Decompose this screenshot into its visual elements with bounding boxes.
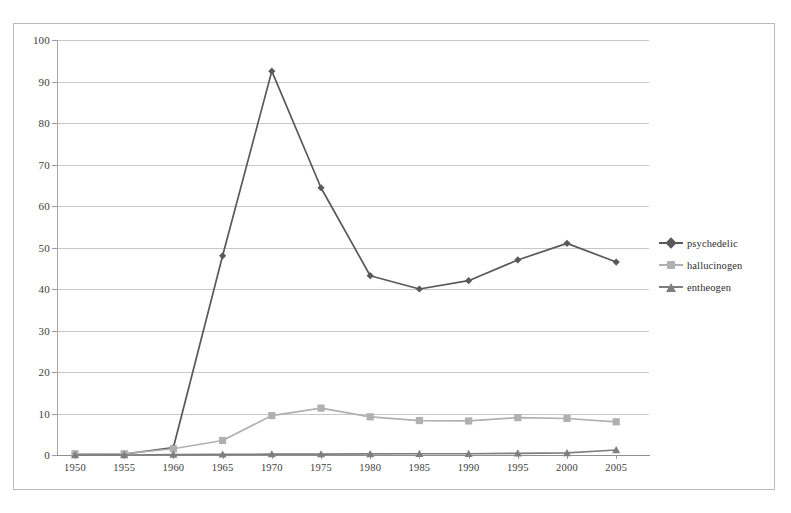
x-axis-tick-mark (616, 455, 617, 459)
x-axis-tick-mark (272, 455, 273, 459)
y-axis-line (57, 40, 58, 456)
x-axis-tick-mark (173, 455, 174, 459)
legend-label: psychedelic (687, 238, 738, 249)
y-axis-tick-label: 0 (44, 449, 50, 461)
y-axis-tick-label: 60 (39, 200, 50, 212)
x-axis-tick-mark (567, 455, 568, 459)
legend-item-entheogen[interactable]: entheogen (659, 276, 769, 298)
y-axis-tick-labels: 0102030405060708090100 (0, 0, 50, 513)
x-axis-tick-mark (370, 455, 371, 459)
y-axis-tick-label: 100 (33, 34, 50, 46)
chart-legend: psychedelichallucinogenentheogen (659, 232, 769, 298)
x-axis-tick-label: 1955 (113, 462, 135, 473)
y-axis-tick-label: 20 (39, 366, 50, 378)
x-axis-tick-label: 2005 (605, 462, 627, 473)
x-axis-tick-mark (124, 455, 125, 459)
x-axis-tick-label: 1970 (261, 462, 283, 473)
x-axis-line (57, 455, 650, 456)
x-axis-tick-label: 1985 (408, 462, 430, 473)
legend-marker-square-icon (659, 259, 683, 271)
y-axis-tick-label: 40 (39, 283, 50, 295)
gridline (57, 165, 649, 166)
legend-marker-triangle-icon (659, 281, 683, 293)
x-axis-tick-label: 1995 (507, 462, 529, 473)
legend-label: entheogen (687, 282, 731, 293)
gridline (57, 123, 649, 124)
x-axis-tick-mark (223, 455, 224, 459)
x-axis-tick-mark (518, 455, 519, 459)
x-axis-tick-label: 2000 (556, 462, 578, 473)
y-axis-tick-label: 50 (39, 242, 50, 254)
x-axis-tick-mark (469, 455, 470, 459)
gridline (57, 40, 649, 41)
x-axis-tick-mark (75, 455, 76, 459)
gridline (57, 248, 649, 249)
y-axis-tick-label: 90 (39, 76, 50, 88)
legend-marker-diamond-icon (659, 237, 683, 249)
legend-item-psychedelic[interactable]: psychedelic (659, 232, 769, 254)
x-axis-tick-label: 1980 (359, 462, 381, 473)
gridline (57, 331, 649, 332)
x-axis-tick-label: 1960 (162, 462, 184, 473)
y-axis-tick-label: 70 (39, 159, 50, 171)
legend-item-hallucinogen[interactable]: hallucinogen (659, 254, 769, 276)
gridline (57, 82, 649, 83)
x-axis-tick-label: 1990 (458, 462, 480, 473)
y-axis-tick-label: 80 (39, 117, 50, 129)
x-axis-tick-label: 1950 (64, 462, 86, 473)
plot-area (57, 40, 649, 455)
gridline (57, 206, 649, 207)
x-axis-tick-label: 1975 (310, 462, 332, 473)
gridline (57, 289, 649, 290)
chart-container: 0102030405060708090100 19501955196019651… (0, 0, 791, 513)
y-axis-tick-label: 10 (39, 408, 50, 420)
gridline (57, 372, 649, 373)
legend-label: hallucinogen (687, 260, 742, 271)
x-axis-tick-mark (419, 455, 420, 459)
gridline (57, 414, 649, 415)
x-axis-tick-label: 1965 (212, 462, 234, 473)
x-axis-tick-mark (321, 455, 322, 459)
y-axis-tick-label: 30 (39, 325, 50, 337)
